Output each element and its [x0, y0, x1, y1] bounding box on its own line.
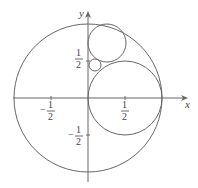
- svg-text:2: 2: [76, 136, 81, 147]
- tick-y-pos-half: 1 2: [75, 47, 83, 70]
- svg-text:2: 2: [48, 111, 53, 122]
- tick-x-neg-half: − 1 2: [40, 99, 55, 122]
- svg-text:1: 1: [76, 124, 81, 135]
- x-axis-label: x: [184, 98, 190, 110]
- tick-y-neg-half: − 1 2: [68, 124, 83, 147]
- svg-text:1: 1: [76, 47, 81, 58]
- svg-text:2: 2: [122, 111, 127, 122]
- y-axis-label: y: [78, 7, 84, 19]
- svg-text:−: −: [68, 129, 74, 140]
- tick-x-pos-half: 1 2: [121, 99, 129, 122]
- svg-text:2: 2: [76, 59, 81, 70]
- upper-circle: [88, 24, 126, 62]
- svg-text:1: 1: [122, 99, 127, 110]
- svg-text:−: −: [40, 104, 46, 115]
- svg-text:1: 1: [48, 99, 53, 110]
- circles-diagram: x y − 1 2 1 2 1 2 − 1 2: [0, 0, 198, 188]
- small-circle: [89, 59, 101, 71]
